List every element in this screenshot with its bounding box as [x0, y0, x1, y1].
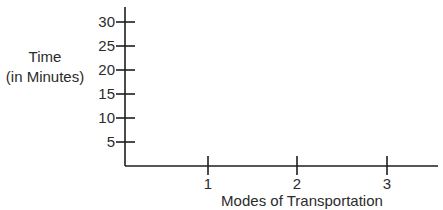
- y-axis-label-line1: Time: [29, 48, 62, 65]
- y-tick-25: 25: [98, 37, 115, 54]
- y-tick-20: 20: [98, 61, 115, 78]
- x-tick-1: 1: [204, 175, 212, 192]
- y-tick-labels: 30 25 20 15 10 5: [98, 13, 115, 150]
- x-tick-labels: 1 2 3: [204, 175, 391, 192]
- x-tick-2: 2: [293, 175, 301, 192]
- x-axis-label: Modes of Transportation: [221, 192, 383, 209]
- y-axis-label-line2: (in Minutes): [6, 68, 84, 85]
- x-tick-3: 3: [383, 175, 391, 192]
- y-tick-15: 15: [98, 85, 115, 102]
- chart: Time (in Minutes) 30 25 20 15 10 5 1 2 3…: [0, 0, 443, 210]
- y-tick-30: 30: [98, 13, 115, 30]
- y-tick-10: 10: [98, 109, 115, 126]
- y-tick-5: 5: [107, 133, 115, 150]
